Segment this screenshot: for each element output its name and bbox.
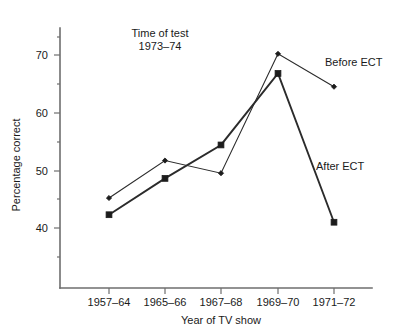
x-axis-title: Year of TV show (181, 314, 261, 326)
data-point (218, 171, 223, 176)
data-point (106, 212, 112, 218)
x-tick-label-1965-66: 1965–66 (144, 296, 187, 308)
data-point (331, 219, 337, 225)
y-axis-title: Percentage correct (10, 119, 22, 212)
data-point (162, 176, 168, 182)
x-axis-ticks (109, 288, 334, 294)
series-markers-before-ect (106, 51, 336, 200)
data-point (331, 84, 336, 89)
series-markers-after-ect (106, 71, 337, 226)
data-point (275, 51, 280, 56)
series-label-after-ect: After ECT (316, 160, 365, 172)
annotation-time-of-test-line2: 1973–74 (139, 40, 182, 52)
y-tick-label-70: 70 (36, 49, 48, 61)
x-tick-label-1957-64: 1957–64 (88, 296, 131, 308)
x-tick-label-1967-68: 1967–68 (200, 296, 243, 308)
y-tick-label-60: 60 (36, 107, 48, 119)
chart-container: 70 60 50 40 Percentage correct 1957–64 1… (0, 0, 397, 333)
data-point (218, 142, 224, 148)
x-tick-label-1969-70: 1969–70 (257, 296, 300, 308)
x-tick-label-1971-72: 1971–72 (313, 296, 356, 308)
annotation-time-of-test-line1: Time of test (131, 27, 188, 39)
series-line-before-ect (109, 54, 334, 198)
series-label-before-ect: Before ECT (325, 56, 383, 68)
line-chart: 70 60 50 40 Percentage correct 1957–64 1… (0, 0, 397, 333)
y-tick-label-40: 40 (36, 222, 48, 234)
data-point (275, 71, 281, 77)
y-tick-label-50: 50 (36, 165, 48, 177)
